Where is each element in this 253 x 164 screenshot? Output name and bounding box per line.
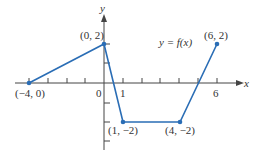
y-axis-arrow-icon	[101, 14, 107, 22]
y-axis-label: y	[99, 2, 105, 14]
x-axis-label: x	[243, 77, 249, 89]
point-label-0-2: (0, 2)	[80, 29, 104, 42]
tick-label-1: 1	[120, 87, 126, 99]
x-axis-arrow-icon	[236, 80, 244, 86]
point-label-6-2: (6, 2)	[204, 29, 228, 42]
point-label-4-neg2: (4, −2)	[165, 124, 195, 137]
function-label: y = f(x)	[158, 36, 192, 49]
point-label-neg4-0: (−4, 0)	[15, 87, 45, 100]
point-label-1-neg2: (1, −2)	[108, 124, 138, 137]
function-graph: y x 0 1 6 (0, 2) (−4, 0) (1, −2) (4, −2)…	[0, 0, 253, 164]
tick-label-6: 6	[213, 87, 219, 99]
tick-label-0: 0	[96, 87, 102, 99]
x-ticks	[29, 78, 217, 83]
